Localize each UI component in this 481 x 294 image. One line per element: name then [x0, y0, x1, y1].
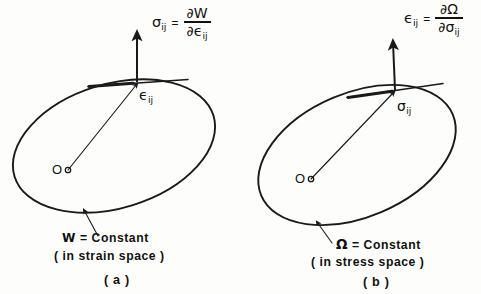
formula-b-denominator: ∂σij: [435, 19, 462, 36]
panel-label-a: ( a ): [104, 274, 130, 287]
normal-formula-b: ϵij = ∂Ω ∂σij: [404, 2, 463, 35]
position-vector-b: [311, 92, 394, 179]
origin-label-b: O: [295, 172, 305, 185]
curve-caption-a-symbol: W: [62, 231, 76, 245]
formula-b-numerator: ∂Ω: [437, 2, 461, 17]
formula-a-numerator: ∂W: [184, 6, 211, 21]
curve-caption-a-rest: = Constant: [80, 231, 149, 245]
vector-label-b: σij: [397, 99, 411, 115]
panel-b-graphics: [237, 42, 477, 253]
formula-b-denominator-sub: ij: [454, 25, 459, 36]
tangent-thick-left-b: [348, 91, 392, 97]
formula-a-denominator: ∂ϵij: [184, 23, 211, 40]
curve-caption-b-line1: Ω = Constant: [336, 238, 421, 252]
level-curve-ellipse-b: [237, 57, 477, 252]
vector-label-b-sub: ij: [406, 105, 411, 116]
curve-caption-a-line2: ( in strain space ): [54, 250, 165, 262]
curve-caption-b-rest: = Constant: [352, 238, 421, 252]
vector-label-a-sub: ij: [148, 94, 153, 105]
formula-b-lhs-sub: ij: [413, 17, 418, 28]
normal-formula-a: σij = ∂W ∂ϵij: [152, 6, 211, 39]
formula-a-equals: =: [172, 16, 179, 30]
figure-canvas: σij = ∂W ∂ϵij ϵij O W = Constant ( in st…: [0, 0, 481, 294]
panel-a-graphics: [0, 33, 232, 236]
formula-a-lhs-sub: ij: [161, 21, 166, 32]
position-vector-a: [68, 84, 137, 170]
panel-label-b: ( b ): [363, 276, 390, 289]
formula-a-fraction: ∂W ∂ϵij: [184, 6, 211, 39]
formula-b-fraction: ∂Ω ∂σij: [435, 2, 462, 35]
curve-caption-a-line1: W = Constant: [62, 232, 149, 244]
formula-a-lhs: σij: [152, 14, 167, 32]
tangent-thick-left-a: [89, 83, 133, 86]
curve-caption-b-line2: ( in stress space ): [311, 256, 424, 268]
curve-caption-b-symbol: Ω: [336, 236, 348, 252]
vector-label-a: ϵij: [139, 88, 153, 104]
formula-b-lhs: ϵij: [404, 10, 418, 28]
normal-arrow-b: [393, 42, 395, 90]
formula-b-equals: =: [423, 12, 430, 26]
origin-label-a: O: [52, 163, 62, 176]
formula-a-denominator-sub: ij: [202, 29, 207, 40]
